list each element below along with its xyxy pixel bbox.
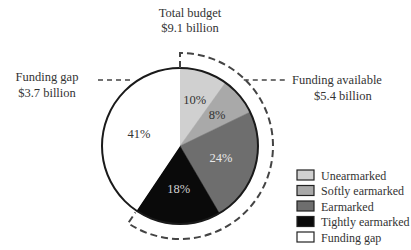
legend-label-funding-gap: Funding gap: [321, 231, 381, 245]
legend-swatch-funding-gap: [297, 232, 314, 242]
legend-label-softly-earmarked: Softly earmarked: [321, 184, 404, 198]
pie-chart: 10%8%24%18%41% Total budget $9.1 billion…: [0, 0, 411, 250]
slice-label-unearmarked: 10%: [183, 93, 206, 107]
slice-label-softly-earmarked: 8%: [209, 108, 226, 122]
funding-gap-label: Funding gap: [16, 70, 79, 84]
slice-label-earmarked: 24%: [210, 151, 233, 165]
legend-swatch-tightly-earmarked: [297, 217, 314, 227]
chart-title-value: $9.1 billion: [161, 21, 219, 35]
legend-label-tightly-earmarked: Tightly earmarked: [321, 215, 410, 229]
funding-gap-value: $3.7 billion: [18, 86, 76, 100]
legend-label-unearmarked: Unearmarked: [321, 169, 386, 183]
chart-title: Total budget: [159, 6, 222, 20]
slice-label-tightly-earmarked: 18%: [167, 182, 190, 196]
legend-swatch-unearmarked: [297, 170, 314, 180]
funding-available-value: $5.4 billion: [314, 89, 372, 103]
legend-swatch-earmarked: [297, 201, 314, 211]
funding-available-label: Funding available: [292, 73, 382, 87]
legend: UnearmarkedSoftly earmarkedEarmarkedTigh…: [297, 169, 410, 245]
slice-label-funding-gap: 41%: [127, 127, 150, 141]
legend-label-earmarked: Earmarked: [321, 200, 374, 214]
legend-swatch-softly-earmarked: [297, 186, 314, 196]
